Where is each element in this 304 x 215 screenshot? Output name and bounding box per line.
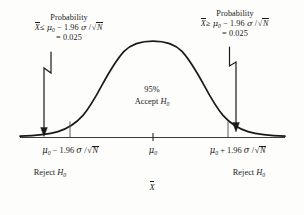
right-annotation-line1: Probability — [172, 9, 298, 19]
reject-right-word: Reject — [233, 168, 254, 177]
right-annotation-formula: X≥ μ0 − 1.96 σ /√N — [172, 19, 298, 29]
reject-region-right-label: Reject H0 — [212, 168, 286, 178]
left-xbar-symbol: X — [35, 23, 40, 33]
axis-xbar-symbol: X — [149, 182, 154, 192]
right-annotation-value: = 0.025 — [172, 29, 298, 39]
right-sigma-symbol: σ — [247, 18, 253, 28]
reject-right-h-subscript: 0 — [262, 172, 265, 178]
left-tick-sqrt-radicand: N — [92, 146, 99, 155]
right-tick-operator: + — [220, 146, 225, 155]
left-annotation-arrow — [41, 52, 51, 137]
left-sigma-symbol: σ — [81, 22, 87, 32]
left-sqrt-radicand: N — [96, 23, 103, 33]
left-annotation-value: = 0.025 — [8, 33, 130, 43]
left-sqrt-icon: √N — [91, 23, 103, 33]
left-tick-operator: − — [53, 146, 58, 155]
right-coefficient: 1.96 — [230, 19, 245, 28]
mean-tick-label: μ0 — [133, 145, 173, 156]
right-annotation-arrow — [230, 47, 240, 132]
accept-region-label: 95% Accept H0 — [113, 84, 191, 108]
left-coefficient: 1.96 — [64, 23, 79, 32]
right-relation-symbol: ≥ — [206, 19, 211, 28]
reject-region-left-label: Reject H0 — [13, 168, 87, 178]
right-sqrt-radicand: N — [262, 19, 269, 29]
confidence-percent: 95% — [113, 84, 191, 96]
right-tick-coefficient: 1.96 — [227, 146, 242, 155]
right-tick-sqrt-radicand: N — [259, 146, 266, 155]
accept-hypothesis-text: Accept H0 — [113, 96, 191, 108]
right-mu-subscript: 0 — [218, 22, 221, 28]
left-probability-annotation: Probability X≤ μ0 − 1.96 σ /√N = 0.025 — [8, 13, 130, 42]
reject-left-word: Reject — [34, 168, 55, 177]
left-tick-sqrt-icon: √N — [86, 146, 98, 155]
right-xbar-symbol: X — [201, 19, 206, 29]
left-annotation-formula: X≤ μ0 − 1.96 σ /√N — [8, 23, 130, 33]
left-mu-subscript: 0 — [52, 26, 55, 32]
right-tick-sigma: σ — [244, 145, 250, 155]
accept-word: Accept — [135, 97, 159, 106]
left-tick-sigma: σ — [76, 145, 82, 155]
left-critical-value-label: μ0 − 1.96 σ /√N — [8, 145, 133, 156]
axis-variable-label: X — [134, 182, 170, 192]
left-annotation-line1: Probability — [8, 13, 130, 23]
right-operator: − — [223, 19, 228, 28]
right-tick-mu-subscript: 0 — [215, 150, 218, 156]
left-operator: − — [57, 23, 62, 32]
right-probability-annotation: Probability X≥ μ0 − 1.96 σ /√N = 0.025 — [172, 9, 298, 38]
right-tick-sqrt-icon: √N — [254, 146, 266, 155]
reject-left-h-subscript: 0 — [63, 172, 66, 178]
accept-h-subscript: 0 — [167, 101, 170, 107]
right-critical-value-label: μ0 + 1.96 σ /√N — [176, 145, 300, 156]
left-relation-symbol: ≤ — [40, 23, 45, 32]
right-sqrt-icon: √N — [257, 19, 269, 29]
left-tick-coefficient: 1.96 — [60, 146, 75, 155]
left-tick-mu-subscript: 0 — [48, 150, 51, 156]
center-tick-mu-subscript: 0 — [154, 150, 157, 156]
statistics-figure: Probability X≤ μ0 − 1.96 σ /√N = 0.025 P… — [0, 0, 304, 215]
